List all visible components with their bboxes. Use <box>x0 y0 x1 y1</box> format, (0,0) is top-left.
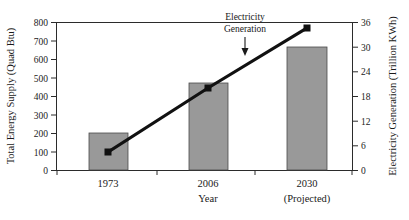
right-tick-label-0: 0 <box>361 166 366 176</box>
right-tick-label-30: 30 <box>361 43 371 53</box>
right-axis-ticks <box>353 23 358 171</box>
bar-series <box>89 47 327 170</box>
left-tick-label-500: 500 <box>34 74 49 84</box>
line-marker-1973 <box>105 149 112 156</box>
left-tick-label-800: 800 <box>34 18 49 28</box>
annotation-line-2: Generation <box>224 24 266 34</box>
category-label-2006: 2006 <box>198 178 219 189</box>
left-tick-label-0: 0 <box>43 166 48 176</box>
line-marker-2006 <box>205 85 212 92</box>
left-tick-label-200: 200 <box>34 129 49 139</box>
right-tick-label-24: 24 <box>361 67 371 77</box>
left-axis-tick-labels: 800 700 600 500 400 300 200 100 0 <box>34 18 49 176</box>
right-axis-title: Electricity Generation (Trillion KWh) <box>387 16 399 176</box>
category-label-2030: 2030 <box>297 178 318 189</box>
x-axis-title: Year <box>198 193 218 204</box>
left-tick-label-700: 700 <box>34 37 49 47</box>
right-axis-tick-labels: 36 30 24 18 12 6 0 <box>361 18 371 176</box>
electricity-generation-annotation: Electricity Generation <box>224 12 266 56</box>
category-sublabel-projected: (Projected) <box>284 193 331 205</box>
left-axis-ticks <box>51 23 56 171</box>
dual-axis-bar-line-chart: 800 700 600 500 400 300 200 100 0 Total … <box>0 0 409 220</box>
left-axis-title: Total Energy Supply (Quad Btu) <box>5 27 17 164</box>
annotation-arrow-head-icon <box>242 48 249 56</box>
bar-2030 <box>287 47 327 170</box>
left-tick-label-300: 300 <box>34 111 49 121</box>
line-marker-2030 <box>304 25 311 32</box>
right-tick-label-36: 36 <box>361 18 371 28</box>
category-label-1973: 1973 <box>98 178 119 189</box>
left-tick-label-100: 100 <box>34 148 49 158</box>
chart-figure: 800 700 600 500 400 300 200 100 0 Total … <box>0 0 409 220</box>
annotation-line-1: Electricity <box>225 12 265 22</box>
left-tick-label-400: 400 <box>34 92 49 102</box>
left-tick-label-600: 600 <box>34 55 49 65</box>
right-tick-label-6: 6 <box>361 141 366 151</box>
right-tick-label-12: 12 <box>361 117 371 127</box>
right-tick-label-18: 18 <box>361 92 371 102</box>
